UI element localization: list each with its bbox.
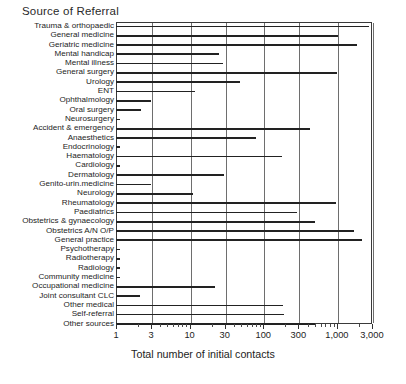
bar <box>116 128 310 130</box>
chart-title: Source of Referral <box>22 5 119 17</box>
category-label: Genito-urin.medicine <box>0 179 114 188</box>
bar <box>116 202 336 204</box>
x-tick <box>225 324 226 329</box>
x-minor-tick <box>173 324 174 327</box>
bar <box>116 212 297 214</box>
x-minor-tick <box>285 324 286 327</box>
category-label: Paediatrics <box>0 207 114 216</box>
bar <box>116 314 284 316</box>
x-tick-label: 1 <box>113 330 118 340</box>
bar <box>116 100 151 102</box>
x-minor-tick <box>160 324 161 327</box>
category-label: Dermatology <box>0 170 114 179</box>
x-minor-tick <box>167 324 168 327</box>
bar <box>116 72 337 74</box>
x-minor-tick <box>138 324 139 327</box>
bar <box>116 239 362 241</box>
category-label: Obstetrics A/N O/P <box>0 226 114 235</box>
bar <box>116 277 120 279</box>
x-minor-tick <box>308 324 309 327</box>
category-label: General practice <box>0 235 114 244</box>
x-tick-label: 300 <box>291 330 307 340</box>
x-axis: Total number of initial contacts 1310301… <box>0 324 406 384</box>
category-label: General medicine <box>0 30 114 39</box>
bar <box>116 146 120 148</box>
category-label: Trauma & orthopaedic <box>0 21 114 30</box>
x-tick-label: 30 <box>220 330 230 340</box>
category-label: Radiotherapy <box>0 253 114 262</box>
category-label: Oral surgery <box>0 105 114 114</box>
category-label: Neurology <box>0 188 114 197</box>
category-label: General surgery <box>0 67 114 76</box>
bar <box>116 109 141 111</box>
bar-rows: Trauma & orthopaedicGeneral medicineGeri… <box>0 22 406 324</box>
bar <box>116 230 354 232</box>
x-tick-label: 100 <box>255 330 271 340</box>
bar <box>116 174 224 176</box>
category-label: Urology <box>0 77 114 86</box>
bar <box>116 267 120 269</box>
category-label: Accident & emergency <box>0 123 114 132</box>
category-label: Mental handicap <box>0 49 114 58</box>
x-tick-label: 3,000 <box>360 330 383 340</box>
bar <box>116 81 240 83</box>
bar <box>116 44 357 46</box>
category-label: Ophthalmology <box>0 95 114 104</box>
bar <box>116 156 282 158</box>
category-label: Neurosurgery <box>0 114 114 123</box>
x-axis-label: Total number of initial contacts <box>0 348 406 360</box>
x-minor-tick <box>252 324 253 327</box>
x-minor-tick <box>334 324 335 327</box>
x-minor-tick <box>178 324 179 327</box>
x-tick-label: 10 <box>184 330 194 340</box>
bar <box>116 295 140 297</box>
x-tick <box>337 324 338 329</box>
bar <box>116 137 256 139</box>
category-label: Rheumatology <box>0 198 114 207</box>
x-minor-tick <box>212 324 213 327</box>
x-minor-tick <box>247 324 248 327</box>
category-label: ENT <box>0 86 114 95</box>
bar <box>116 305 283 307</box>
category-label: Occupational medicine <box>0 281 114 290</box>
x-minor-tick <box>241 324 242 327</box>
category-label: Mental illness <box>0 58 114 67</box>
x-tick <box>151 324 152 329</box>
category-label: Endocrinology <box>0 142 114 151</box>
category-label: Joint consultant CLC <box>0 291 114 300</box>
x-minor-tick <box>359 324 360 327</box>
x-tick <box>190 324 191 329</box>
category-label: Psychotherapy <box>0 244 114 253</box>
x-minor-tick <box>182 324 183 327</box>
category-label: Haematology <box>0 151 114 160</box>
bar <box>116 91 195 93</box>
bar <box>116 119 120 121</box>
x-tick <box>298 324 299 329</box>
bar <box>116 35 338 37</box>
x-minor-tick <box>315 324 316 327</box>
category-label: Cardiology <box>0 160 114 169</box>
category-label: Obstetrics & gynaecology <box>0 216 114 225</box>
bar <box>116 26 369 28</box>
x-minor-tick <box>321 324 322 327</box>
x-minor-tick <box>234 324 235 327</box>
x-minor-tick <box>256 324 257 327</box>
category-label: Self-referral <box>0 309 114 318</box>
bar <box>116 63 223 65</box>
bar <box>116 184 151 186</box>
bar <box>116 258 120 260</box>
category-label: Other medical <box>0 300 114 309</box>
bar <box>116 286 215 288</box>
x-tick <box>116 324 117 329</box>
x-minor-tick <box>325 324 326 327</box>
bar <box>116 193 193 195</box>
x-tick <box>372 324 373 329</box>
bar <box>116 221 315 223</box>
bar <box>116 165 120 167</box>
x-tick-label: 3 <box>149 330 154 340</box>
category-label: Community medicine <box>0 272 114 281</box>
x-minor-tick <box>186 324 187 327</box>
category-label: Anaesthetics <box>0 133 114 142</box>
bar <box>116 53 219 55</box>
bar <box>116 249 120 251</box>
